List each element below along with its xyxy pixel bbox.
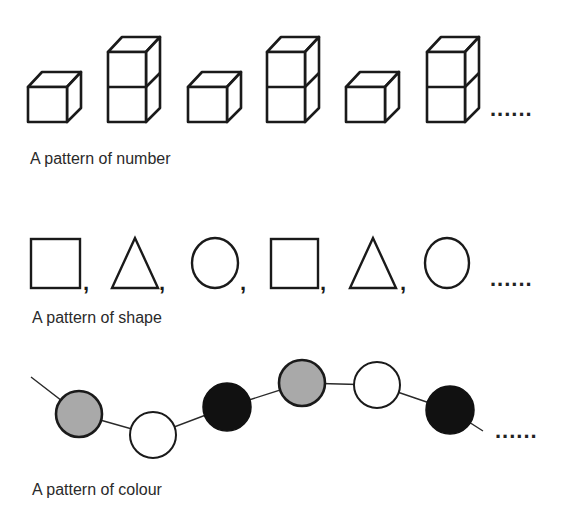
colour-pattern — [31, 360, 483, 458]
label-pattern-number: A pattern of number — [30, 150, 171, 168]
square-shape-1 — [31, 239, 80, 288]
svg-text:,: , — [400, 270, 406, 295]
label-pattern-colour: A pattern of colour — [32, 481, 162, 499]
square-shape-2 — [271, 239, 318, 288]
triangle-shape-1 — [112, 238, 158, 288]
bead-grey-1 — [56, 391, 102, 437]
cube-stack-1 — [108, 37, 160, 122]
svg-text:,: , — [240, 270, 246, 295]
continuation-dots-colour: ...... — [495, 418, 538, 444]
bead-black-1 — [203, 383, 251, 431]
bead-black-2 — [426, 386, 474, 434]
cube-stack-3 — [427, 37, 479, 122]
cube-stack-2 — [267, 37, 319, 122]
bead-white-1 — [130, 412, 176, 458]
patterns-diagram: , , , , , — [0, 0, 579, 515]
triangle-shape-2 — [350, 238, 396, 288]
bead-grey-2 — [279, 360, 325, 406]
continuation-dots-number: ...... — [490, 96, 533, 122]
svg-text:,: , — [320, 270, 326, 295]
svg-text:,: , — [159, 270, 165, 295]
label-pattern-shape: A pattern of shape — [32, 309, 162, 327]
bead-white-2 — [354, 362, 400, 408]
cube-single-3 — [346, 72, 399, 122]
svg-text:,: , — [83, 270, 89, 295]
cube-single-1 — [28, 72, 81, 122]
continuation-dots-shape: ...... — [490, 266, 533, 292]
cube-single-2 — [188, 72, 241, 122]
cube-pattern — [28, 37, 479, 122]
circle-shape-1 — [192, 238, 238, 288]
circle-shape-2 — [425, 238, 469, 288]
